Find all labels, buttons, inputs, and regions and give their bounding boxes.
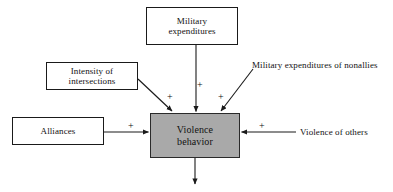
edge-sign-nonallies-to-violence: + <box>218 92 224 102</box>
node-military-expenditures-of-nonallies: Military expenditures of nonallies <box>252 60 378 71</box>
node-label-line1: Alliances <box>41 126 76 136</box>
node-label-line2: behavior <box>177 136 213 148</box>
edge-sign-intensity-to-violence: + <box>167 92 173 102</box>
node-intensity-of-intersections: Intensity of intersections <box>46 62 138 90</box>
edge-sign-alliances-to-violence: + <box>128 121 134 131</box>
node-label-line2: of nonallies <box>334 60 377 70</box>
node-label-line1: Intensity of <box>69 66 116 76</box>
causal-diagram: Military expenditures Intensity of inter… <box>0 0 393 192</box>
node-label-line2: expenditures <box>168 26 215 36</box>
node-violence-of-others: Violence of others <box>300 127 368 138</box>
node-violence-behavior: Violence behavior <box>150 113 240 158</box>
edge-nonallies-to-violence <box>221 69 253 111</box>
node-label-line2: intersections <box>69 76 116 86</box>
node-alliances: Alliances <box>12 117 104 145</box>
node-military-expenditures: Military expenditures <box>146 7 238 45</box>
edge-sign-others-to-violence: + <box>259 121 265 131</box>
node-label-line1: Violence of others <box>300 127 368 137</box>
node-label-line1: Military expenditures <box>252 60 332 70</box>
node-label-line1: Violence <box>177 124 213 136</box>
node-label-line1: Military <box>168 16 215 26</box>
edge-sign-military-to-violence: + <box>197 80 203 90</box>
